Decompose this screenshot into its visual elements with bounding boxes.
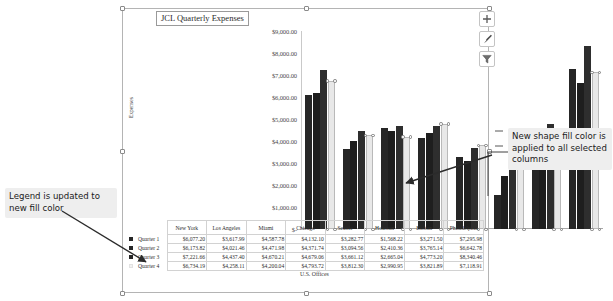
chart-resize-handle-mid-left[interactable]	[120, 149, 125, 154]
data-table-category-header: Los Angeles	[207, 221, 247, 235]
data-table-cell: $2,410.36	[365, 244, 405, 253]
chart-elements-plus-icon[interactable]	[479, 11, 495, 27]
bar-3-1[interactable]	[381, 128, 388, 229]
bar-3-2[interactable]	[388, 131, 395, 229]
legend-entry-3[interactable]: Quarter 3	[127, 253, 167, 262]
data-table-row: Quarter 3$7,221.66$4,437.40$4,670.21$4,6…	[127, 253, 484, 262]
bar-4-2[interactable]	[426, 133, 433, 229]
bar-4-1[interactable]	[418, 138, 425, 229]
bar-selection-handle[interactable]	[522, 228, 526, 232]
bar-6-2[interactable]	[501, 176, 508, 229]
chart-title[interactable]: JCL Quarterly Expenses	[156, 11, 249, 26]
data-table-row: Quarter 2$6,173.82$4,021.46$4,471.98$4,3…	[127, 244, 484, 253]
data-table-cell: $4,200.04	[246, 262, 286, 271]
bar-3-4[interactable]	[403, 137, 410, 229]
bar-selection-handle[interactable]	[590, 71, 594, 75]
legend-entry-2[interactable]: Quarter 2	[127, 244, 167, 253]
bar-4-4[interactable]	[441, 124, 448, 229]
y-axis-tick-label: $7,000.00	[272, 72, 297, 79]
data-table-body: Quarter 1$6,077.20$3,617.99$4,587.78$4,1…	[127, 235, 484, 271]
bar-5-1[interactable]	[456, 157, 463, 229]
data-table-cell: $3,282.77	[325, 235, 365, 244]
y-axis-tick-label: $2,000.00	[272, 182, 297, 189]
bar-selection-handle[interactable]	[484, 144, 488, 148]
data-table-cell: $6,642.78	[444, 244, 484, 253]
data-table-cell: $4,670.21	[246, 253, 286, 262]
chart-filters-funnel-icon[interactable]	[479, 51, 495, 67]
bar-group[interactable]	[414, 31, 452, 229]
bar-1-2[interactable]	[313, 93, 320, 229]
bar-selection-handle[interactable]	[598, 228, 602, 232]
bar-selection-handle[interactable]	[401, 135, 405, 139]
data-table-category-header: Seattle	[325, 221, 365, 235]
bar-6-4[interactable]	[517, 163, 524, 229]
bar-selection-handle[interactable]	[447, 122, 451, 126]
chart-resize-handle-bottom-left[interactable]	[120, 291, 125, 296]
chart-data-table[interactable]: New YorkLos AngelesMiamiChicagoSeattleHo…	[127, 220, 484, 271]
data-table-cell: $3,617.99	[207, 235, 247, 244]
legend-entry-label: Quarter 2	[138, 245, 159, 251]
bar-selection-handle[interactable]	[598, 71, 602, 75]
bar-group[interactable]	[339, 31, 377, 229]
data-table-cell: $4,437.40	[207, 253, 247, 262]
data-table-cell: $4,258.11	[207, 262, 247, 271]
bar-5-2[interactable]	[464, 161, 471, 229]
chart-resize-handle-top-center[interactable]	[304, 6, 309, 11]
bar-6-1[interactable]	[494, 195, 501, 230]
data-table-category-header: Philadelphia	[444, 221, 484, 235]
legend-entry-1[interactable]: Quarter 1	[127, 235, 167, 244]
bar-2-2[interactable]	[350, 141, 357, 229]
x-axis-title[interactable]: U.S. Offices	[300, 271, 329, 277]
data-table-cell: $3,094.56	[325, 244, 365, 253]
bar-1-1[interactable]	[305, 95, 312, 229]
data-table-cell: $2,665.04	[365, 253, 405, 262]
bar-group[interactable]	[301, 31, 339, 229]
data-table-cell: $3,271.50	[404, 235, 444, 244]
screenshot-root: $9,000.00$8,000.00$7,000.00$6,000.00$5,0…	[0, 0, 613, 301]
bar-2-4[interactable]	[366, 135, 373, 229]
data-table-cell: $6,077.20	[167, 235, 207, 244]
y-axis-tick-label: $1,000.00	[272, 204, 297, 211]
bar-selection-handle[interactable]	[409, 135, 413, 139]
bar-5-3[interactable]	[471, 148, 478, 229]
bar-5-4[interactable]	[479, 145, 486, 229]
bar-selection-handle[interactable]	[515, 228, 519, 232]
bar-selection-handle[interactable]	[333, 79, 337, 83]
data-table-row: Quarter 4$6,734.19$4,258.11$4,200.04$4,7…	[127, 262, 484, 271]
data-table-cell: $4,021.46	[207, 244, 247, 253]
y-axis-tick-label: $8,000.00	[272, 50, 297, 57]
bar-3-3[interactable]	[396, 126, 403, 229]
data-table-cell: $1,568.22	[365, 235, 405, 244]
bar-6-3[interactable]	[509, 170, 516, 229]
bar-selection-handle[interactable]	[590, 228, 594, 232]
bar-selection-handle[interactable]	[371, 134, 375, 138]
bar-2-3[interactable]	[358, 131, 365, 229]
bar-selection-handle[interactable]	[552, 228, 556, 232]
data-table-cell: $6,734.19	[167, 262, 207, 271]
legend-key-swatch	[129, 255, 133, 259]
bar-selection-handle[interactable]	[484, 228, 488, 232]
bar-4-3[interactable]	[433, 126, 440, 229]
data-table-cell: $7,295.98	[444, 235, 484, 244]
y-axis-title[interactable]: Expenses	[128, 97, 134, 118]
bar-group[interactable]	[377, 31, 415, 229]
data-table-cell: $3,661.12	[325, 253, 365, 262]
bar-selection-handle[interactable]	[560, 228, 564, 232]
data-table-category-header: Miami	[246, 221, 286, 235]
legend-entry-4[interactable]: Quarter 4	[127, 262, 167, 271]
data-table-cell: $4,132.10	[286, 235, 326, 244]
y-axis-tick-label: $5,000.00	[272, 116, 297, 123]
data-table-cell: $4,371.74	[286, 244, 326, 253]
y-axis-tick-label: $6,000.00	[272, 93, 297, 100]
bar-2-1[interactable]	[343, 149, 350, 229]
data-table-category-header: Chicago	[286, 221, 326, 235]
chart-resize-handle-bottom-center[interactable]	[304, 291, 309, 296]
bar-1-4[interactable]	[328, 81, 335, 229]
bar-1-3[interactable]	[320, 70, 327, 229]
bar-selection-handle[interactable]	[439, 122, 443, 126]
legend-key-swatch	[129, 264, 133, 268]
chart-resize-handle-mid-right[interactable]	[487, 149, 492, 154]
chart-resize-handle-bottom-right[interactable]	[487, 291, 492, 296]
chart-resize-handle-top-left[interactable]	[120, 6, 125, 11]
chart-styles-brush-icon[interactable]	[479, 31, 495, 47]
